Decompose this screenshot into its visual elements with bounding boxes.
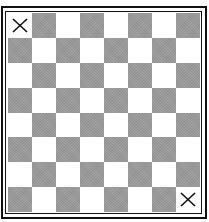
board-square-r3-c2[interactable]	[32, 63, 56, 88]
board-square-r3-c6[interactable]	[128, 63, 152, 88]
board-square-r7-c4[interactable]	[80, 162, 104, 187]
board-square-r5-c8[interactable]	[176, 113, 200, 138]
board-square-r8-c1[interactable]	[8, 187, 32, 212]
board-square-r1-c1[interactable]	[8, 13, 32, 38]
board-square-r5-c5[interactable]	[104, 113, 128, 138]
board-square-r5-c6[interactable]	[128, 113, 152, 138]
board-square-r8-c3[interactable]	[56, 187, 80, 212]
board-square-r3-c3[interactable]	[56, 63, 80, 88]
board-square-r3-c5[interactable]	[104, 63, 128, 88]
board-square-r6-c7[interactable]	[152, 137, 176, 162]
board-square-r8-c7[interactable]	[152, 187, 176, 212]
board-square-r4-c7[interactable]	[152, 88, 176, 113]
board-square-r7-c1[interactable]	[8, 162, 32, 187]
board-square-r6-c4[interactable]	[80, 137, 104, 162]
board-square-r2-c7[interactable]	[152, 38, 176, 63]
checkerboard	[8, 13, 200, 212]
x-mark-icon	[180, 192, 196, 207]
x-mark-icon	[12, 18, 28, 33]
board-square-r5-c7[interactable]	[152, 113, 176, 138]
board-square-r8-c8[interactable]	[176, 187, 200, 212]
board-square-r4-c8[interactable]	[176, 88, 200, 113]
board-square-r6-c2[interactable]	[32, 137, 56, 162]
board-square-r4-c6[interactable]	[128, 88, 152, 113]
board-square-r3-c8[interactable]	[176, 63, 200, 88]
board-square-r1-c7[interactable]	[152, 13, 176, 38]
board-square-r5-c4[interactable]	[80, 113, 104, 138]
board-square-r6-c1[interactable]	[8, 137, 32, 162]
board-square-r2-c8[interactable]	[176, 38, 200, 63]
board-square-r8-c6[interactable]	[128, 187, 152, 212]
board-square-r6-c8[interactable]	[176, 137, 200, 162]
board-square-r7-c6[interactable]	[128, 162, 152, 187]
board-square-r1-c2[interactable]	[32, 13, 56, 38]
board-square-r2-c6[interactable]	[128, 38, 152, 63]
board-square-r4-c2[interactable]	[32, 88, 56, 113]
board-square-r3-c7[interactable]	[152, 63, 176, 88]
board-square-r7-c5[interactable]	[104, 162, 128, 187]
board-square-r2-c5[interactable]	[104, 38, 128, 63]
board-square-r7-c2[interactable]	[32, 162, 56, 187]
board-square-r7-c8[interactable]	[176, 162, 200, 187]
board-square-r8-c2[interactable]	[32, 187, 56, 212]
board-square-r6-c3[interactable]	[56, 137, 80, 162]
board-square-r3-c1[interactable]	[8, 63, 32, 88]
board-square-r1-c8[interactable]	[176, 13, 200, 38]
board-square-r2-c2[interactable]	[32, 38, 56, 63]
board-square-r6-c6[interactable]	[128, 137, 152, 162]
board-square-r4-c4[interactable]	[80, 88, 104, 113]
board-square-r8-c5[interactable]	[104, 187, 128, 212]
board-square-r5-c3[interactable]	[56, 113, 80, 138]
board-square-r4-c5[interactable]	[104, 88, 128, 113]
board-square-r7-c7[interactable]	[152, 162, 176, 187]
board-square-r1-c5[interactable]	[104, 13, 128, 38]
board-square-r5-c2[interactable]	[32, 113, 56, 138]
board-square-r2-c3[interactable]	[56, 38, 80, 63]
board-square-r6-c5[interactable]	[104, 137, 128, 162]
board-square-r4-c1[interactable]	[8, 88, 32, 113]
board-square-r2-c1[interactable]	[8, 38, 32, 63]
board-square-r3-c4[interactable]	[80, 63, 104, 88]
board-square-r4-c3[interactable]	[56, 88, 80, 113]
board-square-r1-c4[interactable]	[80, 13, 104, 38]
board-square-r8-c4[interactable]	[80, 187, 104, 212]
board-square-r5-c1[interactable]	[8, 113, 32, 138]
board-square-r2-c4[interactable]	[80, 38, 104, 63]
board-square-r1-c6[interactable]	[128, 13, 152, 38]
board-square-r7-c3[interactable]	[56, 162, 80, 187]
board-square-r1-c3[interactable]	[56, 13, 80, 38]
